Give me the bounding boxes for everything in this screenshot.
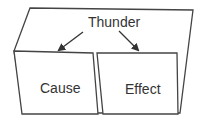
cause-label: Cause: [40, 81, 80, 95]
diagram-title: Thunder: [88, 15, 140, 29]
effect-label: Effect: [125, 82, 161, 96]
